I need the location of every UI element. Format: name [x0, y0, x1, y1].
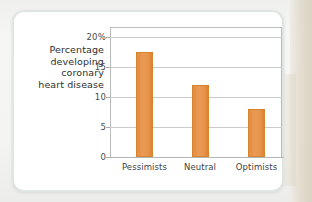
- x-tick-label-pessimists: Pessimists: [114, 162, 175, 172]
- tick-mark-10: [106, 97, 110, 98]
- bar-optimists[interactable]: [248, 109, 265, 157]
- y-tick-label-0: 0: [78, 152, 106, 162]
- axis-baseline-0: [108, 157, 284, 158]
- tick-mark-15: [106, 67, 110, 68]
- y-axis-label-line-3: heart disease: [20, 79, 104, 91]
- bar-chart: Percentage developing coronary heart dis…: [0, 0, 312, 202]
- screenshot-root: Percentage developing coronary heart dis…: [0, 0, 312, 202]
- y-axis-label-line-0: Percentage: [20, 44, 104, 56]
- x-tick-label-optimists: Optimists: [226, 162, 287, 172]
- y-tick-label-10: 10: [78, 92, 106, 102]
- y-tick-label-20: 20%: [78, 32, 106, 42]
- gridline-20: [110, 37, 282, 38]
- tick-mark-5: [106, 127, 110, 128]
- tick-mark-20: [106, 37, 110, 38]
- y-tick-label-5: 5: [78, 122, 106, 132]
- tick-mark-0: [106, 157, 110, 158]
- x-tick-label-neutral: Neutral: [172, 162, 228, 172]
- bar-neutral[interactable]: [192, 85, 209, 157]
- bar-pessimists[interactable]: [136, 52, 153, 157]
- y-tick-label-15: 15: [78, 62, 106, 72]
